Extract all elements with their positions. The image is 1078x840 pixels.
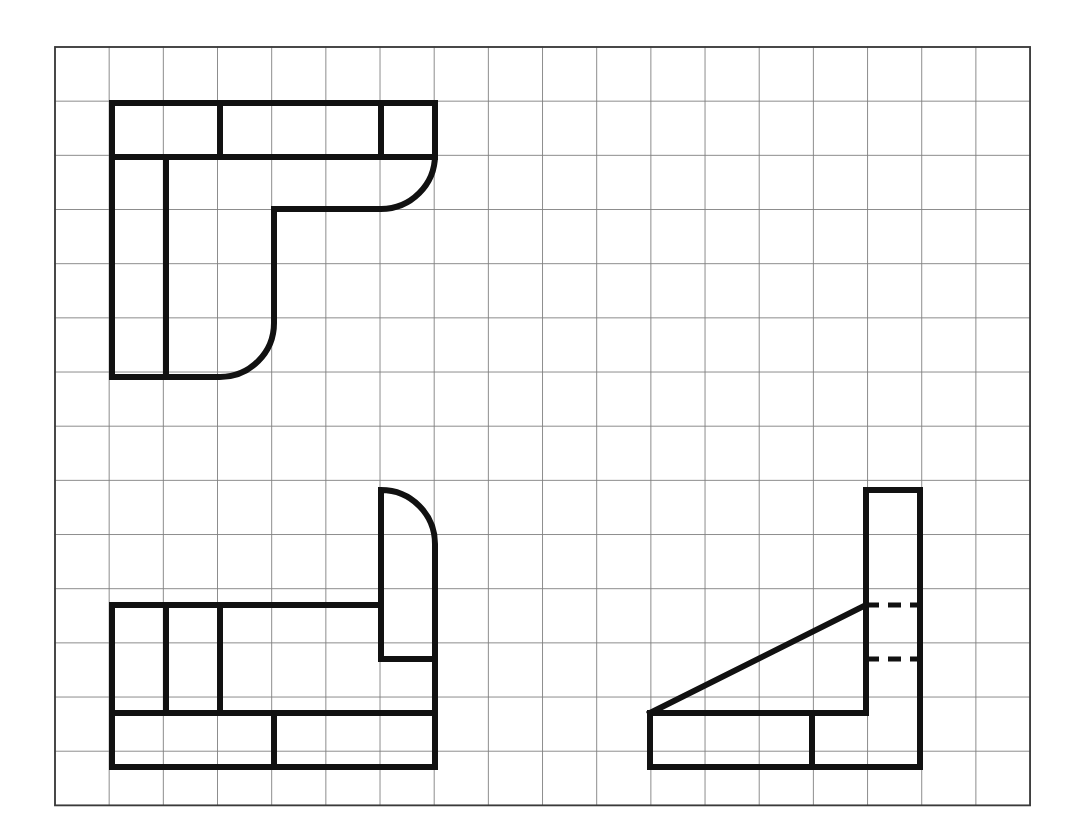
technical-drawing (0, 0, 1078, 840)
drawing-sheet (0, 0, 1078, 840)
